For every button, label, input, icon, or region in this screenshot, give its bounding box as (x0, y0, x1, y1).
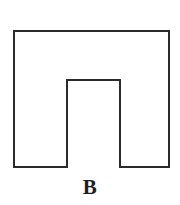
figure-container: B (0, 0, 180, 205)
figure-label: B (0, 176, 180, 198)
